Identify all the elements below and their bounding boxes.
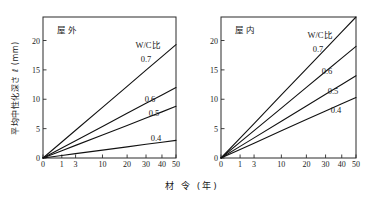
y-tick-label: 5 [214,125,218,134]
y-tick-label: 10 [32,95,40,104]
x-tick-label: 20 [123,160,131,169]
panel-title: 屋内 [235,25,256,35]
series-label-0-7: 0.7 [313,44,324,54]
series-label-0-7: 0.7 [141,54,152,64]
panel-title: 屋外 [57,25,78,35]
x-tick-label: 40 [338,160,346,169]
x-tick-label: 30 [322,160,330,169]
chart-canvas: 013102030405005101520屋外W/C比0.70.60.50.40… [0,0,385,203]
series-line-0-6 [43,88,176,159]
x-tick-label: 50 [172,160,180,169]
x-tick-label: 0 [41,160,45,169]
y-tick-label: 20 [210,37,218,46]
series-label-0-4: 0.4 [151,133,162,143]
y-tick-label: 20 [32,37,40,46]
legend-title: W/C比 [307,30,332,40]
series-label-0-4: 0.4 [331,105,342,115]
y-tick-label: 0 [214,154,218,163]
x-axis-title: 材 令 (年) [165,180,219,191]
series-line-0-6 [221,46,356,158]
y-axis-title: 平均中性化深さ ℓ (mm) [10,41,20,134]
legend-title: W/C比 [135,40,160,50]
chart-panel-outdoor: 013102030405005101520屋外W/C比0.70.60.50.4 [32,17,180,169]
x-tick-label: 10 [277,160,285,169]
x-tick-label: 1 [60,160,64,169]
series-label-0-5: 0.5 [328,86,339,96]
y-tick-label: 0 [36,154,40,163]
x-tick-label: 30 [142,160,150,169]
y-tick-label: 15 [210,66,218,75]
x-tick-label: 20 [302,160,310,169]
series-label-0-5: 0.5 [149,108,160,118]
x-tick-label: 50 [352,160,360,169]
y-tick-label: 10 [210,95,218,104]
x-tick-label: 0 [219,160,223,169]
series-label-0-6: 0.6 [145,94,156,104]
y-tick-label: 5 [36,125,40,134]
x-tick-label: 40 [158,160,166,169]
x-tick-label: 1 [238,160,242,169]
carbonation-depth-figure: 013102030405005101520屋外W/C比0.70.60.50.40… [0,0,385,203]
x-tick-label: 3 [74,160,78,169]
y-tick-label: 15 [32,66,40,75]
series-label-0-6: 0.6 [322,66,333,76]
x-tick-label: 10 [98,160,106,169]
series-line-0-4 [43,140,176,158]
chart-panel-indoor: 013102030405005101520屋内W/C比0.70.60.50.4 [210,17,360,169]
x-tick-label: 3 [252,160,256,169]
